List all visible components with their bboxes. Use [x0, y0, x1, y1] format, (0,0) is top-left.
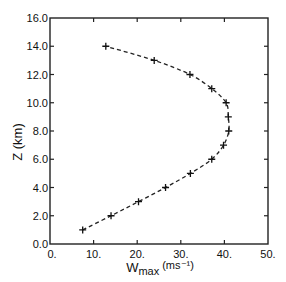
plus-marker-icon [187, 170, 194, 177]
y-tick-label: 0.0 [33, 238, 48, 250]
plus-marker-icon [135, 198, 142, 205]
x-tick-label: 40. [217, 248, 232, 260]
axis-tick-labels: 0.10.20.30.40.50.0.02.04.06.08.010.012.0… [27, 12, 276, 260]
plus-marker-icon [102, 43, 109, 50]
plus-marker-icon [162, 184, 169, 191]
y-tick-label: 12.0 [27, 69, 48, 81]
x-axis-label: Wmax(ms⁻¹) [126, 259, 194, 277]
data-series [83, 46, 229, 230]
y-axis-label: Z (km) [10, 123, 25, 161]
y-tick-label: 10.0 [27, 97, 48, 109]
y-tick-label: 16.0 [27, 12, 48, 24]
plus-marker-icon [225, 113, 232, 120]
x-tick-label: 10. [86, 248, 101, 260]
plus-marker-icon [225, 128, 232, 135]
y-tick-label: 8.0 [33, 125, 48, 137]
y-tick-label: 2.0 [33, 210, 48, 222]
x-tick-label: 0. [47, 248, 56, 260]
y-tick-label: 6.0 [33, 153, 48, 165]
plus-marker-icon [186, 71, 193, 78]
plus-marker-icon [108, 212, 115, 219]
data-markers [79, 43, 232, 234]
profile-line [83, 46, 229, 230]
wmax-profile-chart: 0.10.20.30.40.50.0.02.04.06.08.010.012.0… [0, 0, 286, 282]
y-tick-label: 4.0 [33, 182, 48, 194]
plus-marker-icon [151, 57, 158, 64]
plus-marker-icon [79, 226, 86, 233]
y-tick-label: 14.0 [27, 40, 48, 52]
plot-border [50, 18, 268, 244]
x-tick-label: 20. [130, 248, 145, 260]
x-tick-label: 50. [260, 248, 275, 260]
plus-marker-icon [220, 142, 227, 149]
axis-ticks [50, 18, 268, 244]
plot-frame [50, 18, 268, 244]
